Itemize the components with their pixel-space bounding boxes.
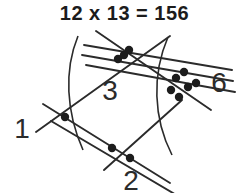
- dot-bottom-1: [108, 144, 116, 152]
- canvas: 12 x 13 = 156: [0, 0, 249, 193]
- dot-ones-1: [61, 113, 69, 121]
- dot-bottom-2: [126, 154, 134, 162]
- line-group-extra: [104, 100, 182, 170]
- dot-right-4: [184, 83, 192, 91]
- dot-right-5: [175, 93, 183, 101]
- right-separator-arc: [157, 37, 172, 155]
- dot-right-3: [167, 86, 175, 94]
- line-a3: [51, 121, 178, 193]
- group-label-3: 3: [102, 75, 118, 106]
- line-b5: [104, 100, 182, 170]
- line-b2: [84, 45, 232, 70]
- dot-right-1: [172, 74, 180, 82]
- line-multiplication-diagram: 1 3 6 2: [0, 0, 249, 193]
- group-label-1: 1: [14, 113, 30, 144]
- group-label-6: 6: [211, 67, 227, 98]
- dot-mid-3: [120, 51, 128, 59]
- dot-right-2: [180, 68, 188, 76]
- group-label-2: 2: [123, 165, 139, 193]
- dot-right-6: [192, 79, 200, 87]
